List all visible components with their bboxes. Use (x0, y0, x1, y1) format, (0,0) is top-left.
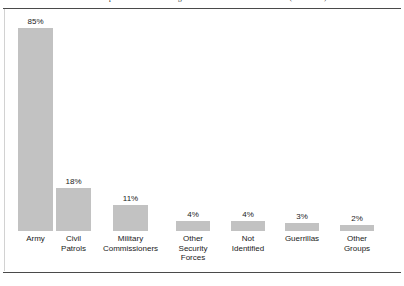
bar-group: 11% Military Commissioners (113, 205, 148, 231)
bar-category-line1: Other (329, 234, 385, 244)
bar-group: 4% Other Security Forces (176, 221, 210, 231)
plot-area: 85% Army 18% Civil Patrols 11% Military … (0, 0, 404, 286)
bar-rect (231, 221, 265, 231)
bar-value-label: 2% (351, 215, 363, 223)
bar-rect (285, 223, 319, 231)
bar-value-label: 85% (27, 18, 43, 26)
bar-rect (113, 205, 148, 231)
bar-group: 3% Guerrillas (285, 223, 319, 231)
bar-category-line2: Groups (329, 244, 385, 254)
figure: Those Responsible for Human Rights Viola… (0, 0, 404, 286)
bar-group: 18% Civil Patrols (56, 188, 91, 231)
bar-value-label: 4% (242, 211, 254, 219)
bar-category-line1: Other (167, 234, 219, 244)
bar-category-line2: Identified (218, 244, 278, 254)
bar-category-label: Military Commissioners (89, 234, 173, 253)
bar-category-line1: Guerrillas (270, 234, 334, 244)
bar-category-line1: Military (89, 234, 173, 244)
bar-category-label: Other Security Forces (167, 234, 219, 263)
bar-rect (340, 225, 374, 231)
bar-category-line2: Security Forces (167, 244, 219, 263)
bar-rect (176, 221, 210, 231)
bar-rect (18, 28, 53, 231)
bar-group: 4% Not Identified (231, 221, 265, 231)
bar-category-line2: Commissioners (89, 244, 173, 254)
bar-category-label: Other Groups (329, 234, 385, 253)
bar-rect (56, 188, 91, 231)
bar-group: 2% Other Groups (340, 225, 374, 231)
bar-value-label: 18% (65, 178, 81, 186)
bar-category-line1: Not (218, 234, 278, 244)
bar-category-label: Not Identified (218, 234, 278, 253)
bar-value-label: 3% (296, 213, 308, 221)
bar-group: 85% Army (18, 28, 53, 231)
bar-value-label: 11% (123, 195, 138, 203)
bar-category-label: Guerrillas (270, 234, 334, 244)
bar-value-label: 4% (187, 211, 199, 219)
